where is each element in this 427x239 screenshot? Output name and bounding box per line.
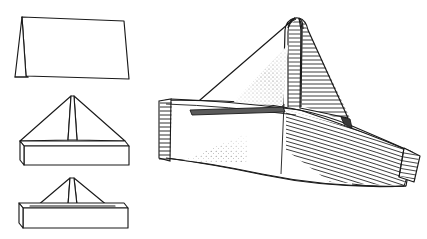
illustration-svg: Folded sheet standing as a tent Corners …: [0, 0, 427, 239]
figure-folded-sheet-tent: [15, 17, 129, 79]
peak2-brim-front: [24, 146, 129, 165]
tent-front-face: [22, 17, 129, 79]
peak3-brim-front: [23, 208, 128, 228]
peak2-brim-top: [20, 141, 129, 146]
peak3-brim-left-end: [19, 203, 23, 228]
illustration-canvas: Folded sheet standing as a tent Corners …: [0, 0, 427, 239]
hat-left-edge-plate: [159, 99, 171, 161]
peak2-brim-left-end: [20, 141, 24, 165]
